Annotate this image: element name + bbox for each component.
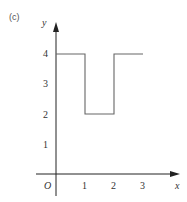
x-tick-2: 2 — [111, 180, 116, 191]
y-axis-label: y — [41, 17, 47, 28]
step-function-chart: (c) y x O 1 2 3 1 2 3 4 — [0, 0, 187, 202]
y-tick-3: 3 — [43, 78, 48, 89]
y-tick-2: 2 — [43, 109, 48, 120]
x-axis-arrow-icon — [170, 171, 180, 177]
y-tick-4: 4 — [43, 48, 48, 59]
y-axis-arrow-icon — [53, 22, 59, 32]
x-tick-3: 3 — [140, 180, 145, 191]
step-function-line — [56, 54, 143, 114]
panel-label: (c) — [9, 12, 20, 22]
x-tick-1: 1 — [82, 180, 87, 191]
origin-label: O — [44, 180, 51, 191]
x-axis-label: x — [174, 180, 180, 191]
y-tick-1: 1 — [43, 139, 48, 150]
